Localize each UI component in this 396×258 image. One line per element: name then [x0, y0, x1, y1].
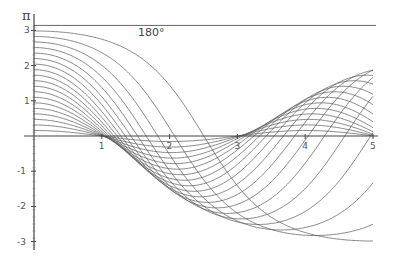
x-tick-label: 3 — [234, 141, 240, 151]
x-tick-label: 2 — [167, 141, 173, 151]
y-tick-label: 1 — [24, 96, 30, 106]
pendulum-chart: 12345321-1-2-3 π 180° — [0, 0, 396, 258]
y-axis-label: π — [22, 8, 31, 23]
x-tick-label: 5 — [370, 141, 376, 151]
y-tick-label: 3 — [24, 25, 30, 35]
y-tick-label: -1 — [17, 166, 26, 176]
annotation-180: 180° — [138, 26, 165, 39]
y-tick-label: -3 — [17, 237, 26, 247]
y-tick-label: -2 — [17, 201, 26, 211]
y-tick-label: 2 — [24, 61, 30, 71]
x-tick-label: 1 — [99, 141, 105, 151]
x-tick-label: 4 — [302, 141, 308, 151]
